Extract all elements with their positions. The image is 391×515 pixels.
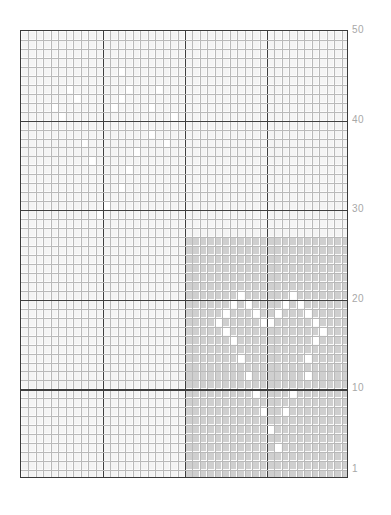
heatmap-cell — [335, 130, 341, 137]
heatmap-cell — [290, 256, 296, 263]
heatmap-cell — [74, 184, 80, 191]
heatmap-cell — [104, 310, 110, 317]
heatmap-cell — [320, 381, 326, 388]
heatmap-cell — [74, 301, 80, 308]
minor-gridline-horizontal — [21, 309, 347, 310]
heatmap-cell — [37, 220, 43, 227]
heatmap-cell — [141, 41, 147, 48]
heatmap-cell — [22, 417, 28, 424]
heatmap-cell — [171, 274, 177, 281]
heatmap-cell — [59, 104, 65, 111]
heatmap-cell — [186, 319, 192, 326]
heatmap-cell — [305, 113, 311, 120]
heatmap-cell — [238, 372, 244, 379]
heatmap-cell — [328, 139, 334, 146]
heatmap-cell — [268, 390, 274, 397]
heatmap-cell — [186, 372, 192, 379]
heatmap-cell — [290, 337, 296, 344]
heatmap-cell — [29, 157, 35, 164]
heatmap-cell — [186, 122, 192, 129]
heatmap-cell — [186, 175, 192, 182]
heatmap-cell — [171, 175, 177, 182]
heatmap-cell — [342, 292, 348, 299]
heatmap-cell — [238, 77, 244, 84]
heatmap-cell — [37, 104, 43, 111]
heatmap-cell — [290, 139, 296, 146]
heatmap-cell — [231, 319, 237, 326]
heatmap-cell — [193, 408, 199, 415]
heatmap-cell — [178, 337, 184, 344]
heatmap-cell — [59, 274, 65, 281]
heatmap-cell — [134, 390, 140, 397]
heatmap-cell — [22, 399, 28, 406]
heatmap-cell — [67, 50, 73, 57]
heatmap-cell — [89, 265, 95, 272]
heatmap-cell — [283, 390, 289, 397]
heatmap-cell — [119, 346, 125, 353]
heatmap-cell — [111, 41, 117, 48]
heatmap-cell — [74, 41, 80, 48]
heatmap-highlight-cell — [223, 309, 229, 317]
heatmap-cell — [104, 247, 110, 254]
heatmap-cell — [313, 399, 319, 406]
heatmap-cell — [178, 363, 184, 370]
heatmap-cell — [320, 157, 326, 164]
heatmap-cell — [275, 50, 281, 57]
minor-gridline-horizontal — [21, 246, 347, 247]
heatmap-cell — [37, 310, 43, 317]
heatmap-cell — [342, 211, 348, 218]
heatmap-cell — [328, 184, 334, 191]
heatmap-cell — [104, 238, 110, 245]
heatmap-cell — [290, 399, 296, 406]
heatmap-cell — [22, 426, 28, 433]
heatmap-cell — [178, 381, 184, 388]
heatmap-cell — [193, 211, 199, 218]
heatmap-cell — [74, 122, 80, 129]
heatmap-cell — [298, 462, 304, 469]
heatmap-cell — [96, 229, 102, 236]
heatmap-cell — [119, 381, 125, 388]
heatmap-cell — [275, 274, 281, 281]
heatmap-cell — [193, 184, 199, 191]
heatmap-cell — [223, 68, 229, 75]
heatmap-cell — [111, 157, 117, 164]
heatmap-cell — [208, 148, 214, 155]
heatmap-cell — [96, 444, 102, 451]
heatmap-cell — [29, 453, 35, 460]
heatmap-cell — [52, 41, 58, 48]
heatmap-cell — [164, 238, 170, 245]
heatmap-cell — [246, 157, 252, 164]
heatmap-cell — [22, 41, 28, 48]
heatmap-cell — [328, 220, 334, 227]
heatmap-cell — [238, 390, 244, 397]
heatmap-cell — [283, 453, 289, 460]
heatmap-cell — [141, 211, 147, 218]
heatmap-plot-area[interactable] — [20, 30, 348, 478]
heatmap-cell — [320, 32, 326, 39]
heatmap-cell — [119, 354, 125, 361]
heatmap-cell — [171, 166, 177, 173]
heatmap-cell — [342, 363, 348, 370]
heatmap-cell — [149, 148, 155, 155]
heatmap-cell — [74, 202, 80, 209]
heatmap-cell — [268, 363, 274, 370]
heatmap-cell — [149, 202, 155, 209]
heatmap-cell — [119, 104, 125, 111]
heatmap-cell — [268, 229, 274, 236]
heatmap-cell — [246, 148, 252, 155]
heatmap-cell — [89, 462, 95, 469]
heatmap-cell — [231, 471, 237, 478]
heatmap-cell — [253, 399, 259, 406]
heatmap-cell — [246, 310, 252, 317]
heatmap-cell — [275, 328, 281, 335]
heatmap-cell — [260, 157, 266, 164]
heatmap-cell — [305, 95, 311, 102]
heatmap-cell — [275, 86, 281, 93]
heatmap-cell — [29, 32, 35, 39]
heatmap-cell — [275, 68, 281, 75]
minor-gridline-horizontal — [21, 291, 347, 292]
heatmap-cell — [67, 193, 73, 200]
heatmap-cell — [141, 453, 147, 460]
heatmap-cell — [223, 220, 229, 227]
heatmap-cell — [260, 68, 266, 75]
